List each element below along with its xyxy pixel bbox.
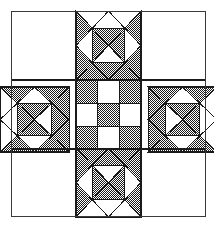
corner-bottom-left: [11, 149, 76, 217]
center-patch-r1-c2: [119, 103, 141, 126]
star-point-bottom: [76, 148, 141, 217]
corner-top-left: [11, 11, 76, 80]
center-patch-r2-c2: [119, 126, 141, 149]
center-patch-r2-c1: [98, 126, 120, 149]
star-point-left: [0, 87, 69, 152]
corner-bottom-right: [141, 149, 206, 217]
quilt-block-illustration: [0, 0, 214, 225]
center-patch-r2-c0: [76, 126, 98, 149]
center-patch-r1-c0: [76, 103, 98, 126]
center-patch-r1-c1: [98, 103, 120, 126]
center-patch-r0-c2: [119, 80, 141, 103]
star-point-right: [148, 87, 214, 152]
center-patch-r0-c0: [76, 80, 98, 103]
quilt-diagram-canvas: [0, 0, 214, 225]
star-point-top: [76, 11, 141, 80]
corner-top-right: [141, 11, 206, 80]
center-ninepatch: [76, 80, 141, 149]
center-patch-r0-c1: [98, 80, 120, 103]
